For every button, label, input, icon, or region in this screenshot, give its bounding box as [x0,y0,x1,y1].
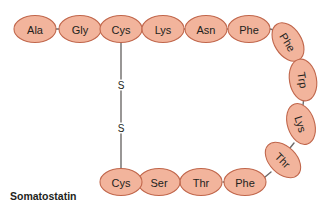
residue-label-cys-3: Cys [112,24,131,36]
residue-gly-2[interactable]: Gly [59,16,101,43]
residue-label-ala-1: Ala [27,24,44,36]
residue-label-asn-5: Asn [197,24,216,36]
somatostatin-diagram-canvas: SS AlaGlyCysLysAsnPhePheTrpLysThrPheThrS… [0,0,330,212]
residue-asn-5[interactable]: Asn [185,16,227,43]
residue-label-thr-12: Thr [193,177,210,189]
figure-caption: Somatostatin [10,190,77,202]
residue-lys-4[interactable]: Lys [142,16,184,43]
residue-label-gly-2: Gly [72,24,89,36]
residue-label-lys-4: Lys [155,24,172,36]
residue-thr-12[interactable]: Thr [180,169,222,196]
residue-label-phe-11: Phe [235,177,255,189]
residue-ser-13[interactable]: Ser [138,169,180,196]
residue-phe-11[interactable]: Phe [224,169,266,196]
peptide-structure-diagram: SS AlaGlyCysLysAsnPhePheTrpLysThrPheThrS… [0,0,330,212]
residue-label-cys-14: Cys [112,177,131,189]
residue-ala-1[interactable]: Ala [14,16,56,43]
residue-cys-14[interactable]: Cys [100,169,142,196]
residue-label-ser-13: Ser [150,177,167,189]
residue-label-phe-6: Phe [239,24,259,36]
residue-phe-6[interactable]: Phe [228,16,270,43]
sulfur-label-1: S [118,80,125,91]
residue-cys-3[interactable]: Cys [100,16,142,43]
sulfur-label-2: S [118,123,125,134]
